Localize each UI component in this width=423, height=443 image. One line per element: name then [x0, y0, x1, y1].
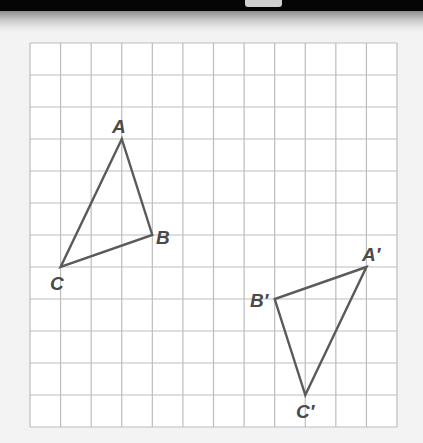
label-c: C [50, 273, 64, 294]
page: A B C A′ B′ C′ [0, 0, 423, 443]
label-b-prime: B′ [250, 290, 270, 311]
label-b: B [156, 227, 170, 248]
label-c-prime: C′ [296, 401, 316, 422]
label-a: A [111, 116, 126, 137]
rotation-diagram: A B C A′ B′ C′ [0, 0, 423, 443]
label-a-prime: A′ [361, 244, 382, 265]
